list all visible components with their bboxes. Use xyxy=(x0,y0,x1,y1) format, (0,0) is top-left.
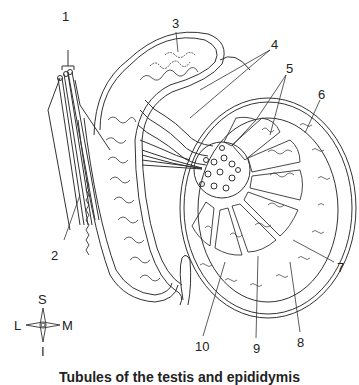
label-3: 3 xyxy=(172,17,179,30)
spermatic-cord xyxy=(48,50,110,230)
label-7: 7 xyxy=(337,261,344,274)
rete-testis xyxy=(194,142,250,198)
efferent-ductules xyxy=(138,100,213,169)
compass-icon xyxy=(26,308,60,342)
label-8: 8 xyxy=(297,336,304,349)
testis-capsule xyxy=(180,57,356,318)
lobules xyxy=(192,117,303,255)
compass-inferior: I xyxy=(41,345,45,358)
compass-superior: S xyxy=(38,293,47,306)
label-6: 6 xyxy=(318,88,325,101)
compass-medial: M xyxy=(62,319,73,332)
label-4: 4 xyxy=(271,38,278,51)
label-1: 1 xyxy=(62,10,69,23)
leader-lines xyxy=(64,32,334,338)
figure-caption: Tubules of the testis and epididymis xyxy=(0,369,359,385)
label-5: 5 xyxy=(286,62,293,75)
label-10: 10 xyxy=(195,340,209,353)
label-2: 2 xyxy=(51,249,58,262)
compass-lateral: L xyxy=(14,319,21,332)
label-9: 9 xyxy=(253,342,260,355)
